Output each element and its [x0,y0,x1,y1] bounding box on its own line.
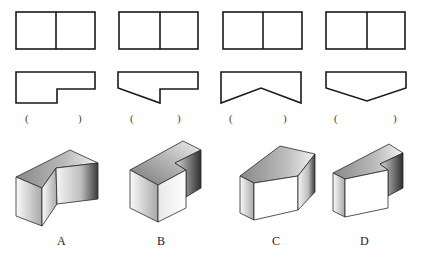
answer-blank-1-open: ( [25,112,29,125]
solid-d [333,144,403,217]
view-1-front-shape [16,72,95,103]
view-4 [326,12,406,101]
solid-b [130,141,201,222]
solid-a-right-face [56,163,98,204]
answer-blank-4-close: ) [393,112,397,125]
solid-d-left-face [333,173,345,217]
view-2 [118,12,198,103]
solid-c-front-face [254,176,298,220]
diagram-canvas: ( ) ( ) ( ) ( ) A [0,0,421,259]
view-3 [221,12,302,103]
view-4-front-shape [326,72,406,101]
view-1 [16,12,95,103]
solid-a [16,150,98,226]
solid-label-b: B [157,234,165,248]
solid-label-c: C [272,234,280,248]
answer-blank-4-open: ( [334,112,338,125]
solid-c [240,146,315,220]
answer-blank-2-open: ( [130,112,134,125]
solid-label-d: D [360,234,369,248]
view-4-top-rect [326,12,405,49]
view-3-front-shape [221,72,301,103]
view-2-top-rect [119,12,198,49]
answer-blank-3-open: ( [229,112,233,125]
answer-blank-1-close: ) [78,112,82,125]
answer-blank-3-close: ) [283,112,287,125]
solid-c-left-face [240,176,254,220]
view-2-front-shape [118,72,198,103]
answer-blank-2-close: ) [177,112,181,125]
solid-label-a: A [57,234,66,248]
